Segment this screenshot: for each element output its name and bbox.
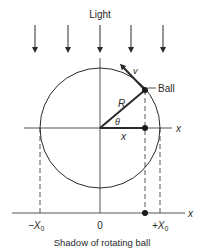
caption: Shadow of rotating ball bbox=[54, 237, 151, 248]
light-label: Light bbox=[89, 9, 111, 20]
ball-label: Ball bbox=[158, 83, 175, 94]
radius-label: R bbox=[118, 98, 125, 109]
upper-x-axis-label: x bbox=[175, 123, 182, 134]
neg-x0-label: −X0 bbox=[28, 220, 45, 232]
lower-x-axis-label: x bbox=[187, 208, 194, 219]
origin-label: 0 bbox=[97, 220, 103, 231]
rotating-ball-shadow-diagram: Light x v Ball R θ x x −X0 0 +X0 Shado bbox=[0, 0, 206, 251]
light-rays bbox=[35, 25, 163, 50]
velocity-label: v bbox=[133, 66, 138, 76]
shadow-point bbox=[142, 210, 148, 216]
pos-x0-label: +X0 bbox=[152, 220, 169, 232]
angle-label: θ bbox=[115, 117, 120, 127]
x-segment-label: x bbox=[120, 131, 127, 142]
radius-line bbox=[100, 90, 145, 128]
projected-point bbox=[142, 125, 148, 131]
ball bbox=[142, 87, 148, 93]
